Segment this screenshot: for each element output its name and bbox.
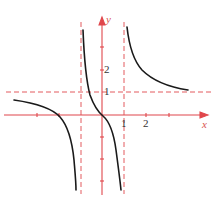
curve: [14, 27, 188, 190]
right-branch: [127, 27, 188, 90]
left-branch: [14, 100, 76, 190]
axes: [4, 17, 208, 195]
y-axis-label: y: [106, 14, 111, 25]
x-tick-label-2: 2: [143, 118, 149, 129]
function-graph: [0, 0, 220, 208]
y-tick-label-2: 2: [104, 64, 110, 75]
x-tick-label-1: 1: [121, 118, 127, 129]
asymptotes: [6, 22, 214, 194]
y-tick-label-1: 1: [104, 86, 110, 97]
x-axis-label: x: [202, 119, 207, 130]
